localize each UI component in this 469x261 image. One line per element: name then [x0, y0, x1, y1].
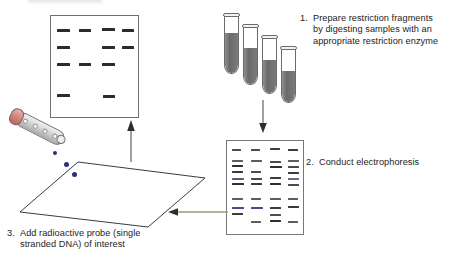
film-band: [57, 63, 70, 66]
arrow-membrane-to-film: [124, 118, 138, 162]
gel-band: [270, 220, 281, 222]
gel-band: [251, 160, 262, 162]
step-1: 1. Prepare restriction fragments by dige…: [300, 13, 468, 47]
step-3-number: 3.: [7, 228, 20, 239]
film-band: [79, 63, 91, 66]
film-band: [57, 29, 70, 32]
film-band: [102, 28, 115, 31]
gel-band: [288, 149, 298, 151]
gel-band: [232, 207, 244, 209]
gel-band: [251, 183, 262, 185]
test-tube: [281, 47, 296, 103]
gel-band: [232, 171, 243, 173]
step-1-text: Prepare restriction fragments by digesti…: [313, 13, 438, 47]
test-tube-rim: [223, 13, 240, 17]
gel-band: [270, 214, 281, 216]
test-tube-rim-wrap: [224, 14, 239, 19]
gel-band: [251, 221, 261, 223]
gel-band: [270, 161, 281, 163]
test-tube-rim-wrap: [262, 36, 277, 41]
test-tube: [243, 25, 258, 85]
gel-band: [232, 165, 243, 167]
test-tube-rim: [261, 35, 278, 39]
film-band: [102, 46, 115, 49]
film-band: [57, 94, 70, 97]
gel-band: [288, 172, 299, 174]
test-tube: [262, 36, 277, 94]
gel-band: [251, 171, 261, 173]
gel-band: [251, 178, 262, 180]
gel-band: [288, 206, 299, 208]
test-tube-sample-fill: [244, 48, 257, 84]
step-3-text: Add radioactive probe (single stranded D…: [20, 228, 140, 251]
step-3: 3. Add radioactive probe (single strande…: [7, 228, 197, 251]
test-tube: [224, 14, 239, 74]
arrow-gel-to-membrane: [166, 206, 228, 218]
test-tube-sample-fill: [282, 71, 295, 102]
film-band: [103, 95, 115, 98]
gel-band: [270, 198, 281, 200]
gel-band: [270, 177, 281, 179]
gel-band: [232, 183, 244, 185]
test-tube-rim-wrap: [243, 25, 258, 30]
gel-band: [270, 183, 281, 185]
step-1-number: 1.: [300, 13, 313, 24]
gel-band: [232, 160, 243, 162]
film-band: [122, 29, 134, 32]
gel-band: [288, 184, 299, 186]
gel-band: [251, 149, 260, 151]
diagram-canvas: 1. Prepare restriction fragments by dige…: [0, 0, 469, 261]
gel-band: [251, 198, 261, 200]
gel-band: [270, 166, 282, 168]
step-2: 2. Conduct electrophoresis: [306, 157, 456, 168]
arrow-tubes-to-gel: [256, 100, 270, 134]
test-tube-rim: [242, 24, 259, 28]
test-tube-rim: [280, 46, 297, 50]
gel-band: [288, 178, 299, 180]
electrophoresis-gel: [226, 140, 304, 235]
gel-band: [232, 149, 241, 151]
gel-band: [288, 160, 299, 162]
gel-band: [288, 221, 298, 223]
film-band: [57, 46, 70, 49]
test-tube-sample-fill: [263, 60, 276, 93]
gel-band: [232, 178, 244, 180]
gel-band: [288, 198, 298, 200]
film-band: [122, 46, 134, 49]
gel-band: [270, 148, 280, 150]
autoradiograph-film: [50, 15, 139, 118]
step-2-text: Conduct electrophoresis: [319, 157, 419, 168]
gel-band: [251, 207, 263, 209]
gel-band: [288, 166, 299, 168]
gel-band: [270, 207, 281, 209]
gel-band: [232, 198, 243, 200]
test-tube-sample-fill: [225, 33, 238, 73]
test-tube-rim-wrap: [281, 47, 296, 52]
top-caption-smudge: [28, 0, 102, 5]
gel-band: [232, 213, 243, 215]
film-band: [79, 29, 91, 32]
step-2-number: 2.: [306, 157, 319, 168]
film-band: [102, 63, 115, 66]
